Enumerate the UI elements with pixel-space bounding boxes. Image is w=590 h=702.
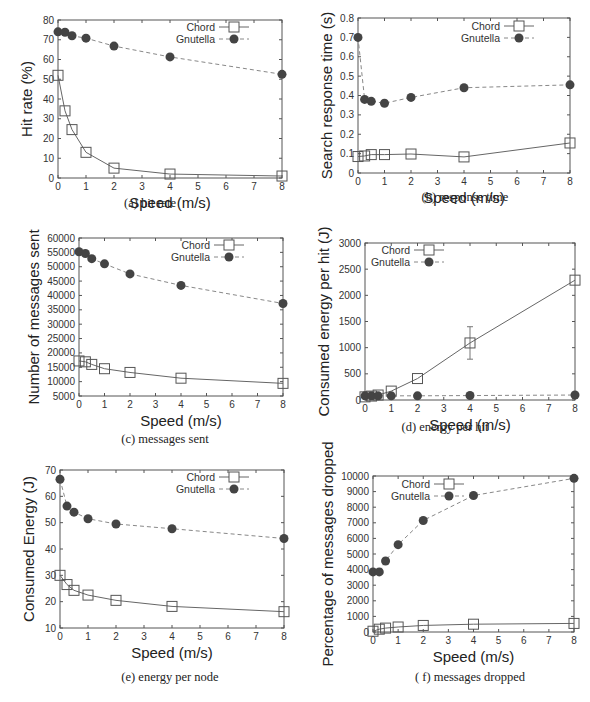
y-tick-label: 35000 [47,304,75,315]
legend-circle-icon [230,35,239,44]
x-tick-label: 0 [76,399,82,410]
y-tick-label: 40 [43,94,55,105]
y-tick-label: 50000 [47,261,75,272]
legend-circle-icon [515,34,524,43]
y-tick-label: 25000 [47,333,75,344]
x-tick-label: 3 [141,631,147,642]
legend-label-chord: Chord [471,20,500,32]
data-point-gnutella [374,391,383,400]
x-tick-label: 6 [223,181,229,192]
y-tick-label: 20000 [47,347,75,358]
y-tick-label: 5000 [53,391,76,402]
x-tick-label: 7 [541,176,547,187]
y-axis-title: Search response time (s) [318,12,335,180]
data-point-gnutella [63,502,72,511]
legend-label-gnutella: Gnutella [176,33,215,45]
x-tick-label: 0 [355,176,361,187]
caption-d: (d) energy per hit [402,420,489,435]
x-tick-label: 4 [169,631,175,642]
chart-a: 01234567801020304050607080Speed (m/s)Hit… [18,15,287,212]
x-tick-label: 3 [139,181,145,192]
y-tick-label: 0.1 [340,148,354,159]
y-axis-title: Number of messages sent [25,229,42,405]
x-tick-label: 8 [567,176,573,187]
data-point-gnutella [68,31,77,40]
series-line-chord [58,75,282,176]
x-axis-title: Speed (m/s) [433,648,515,665]
series-line-gnutella [358,37,570,103]
y-tick-label: 10 [43,153,55,164]
y-tick-label: 10000 [47,376,75,387]
x-tick-label: 1 [83,181,89,192]
legend: ChordGnutella [176,21,249,45]
legend-circle-icon [425,258,434,267]
chart-c: 0123456785000100001500020000250003000035… [25,229,288,429]
y-tick-label: 500 [344,368,361,379]
y-tick-label: 60000 [47,233,75,244]
x-tick-label: 0 [362,403,368,414]
x-tick-label: 2 [415,403,421,414]
x-tick-label: 4 [467,403,473,414]
y-tick-label: 4000 [347,564,370,575]
x-tick-label: 7 [253,631,259,642]
figure-svg: 01234567801020304050607080Speed (m/s)Hit… [0,0,590,702]
x-tick-label: 1 [85,631,91,642]
legend-label-chord: Chord [401,478,430,490]
legend-square-icon [514,21,524,31]
x-tick-label: 5 [493,403,499,414]
x-tick-label: 2 [111,181,117,192]
data-point-gnutella [280,534,289,543]
x-tick-label: 7 [255,399,261,410]
data-point-gnutella [407,93,416,102]
legend-square-icon [444,479,454,489]
y-tick-label: 30000 [47,319,75,330]
y-tick-label: 0.7 [340,32,354,43]
y-tick-label: 10000 [341,471,369,482]
x-tick-label: 8 [279,181,285,192]
y-axis-title: Percentage of messages dropped [319,441,336,666]
x-tick-label: 2 [420,635,426,646]
x-tick-label: 3 [435,176,441,187]
x-tick-label: 4 [167,181,173,192]
y-tick-label: 50 [45,517,57,528]
y-tick-label: 30 [43,113,55,124]
legend-label-gnutella: Gnutella [176,483,215,495]
x-tick-label: 7 [546,403,552,414]
legend: ChordGnutella [371,244,444,268]
x-tick-label: 5 [197,631,203,642]
y-tick-label: 0 [48,173,54,184]
legend-square-icon [229,472,239,482]
x-tick-label: 3 [153,399,159,410]
caption-f: ( f) messages dropped [415,670,525,685]
data-point-gnutella [278,70,287,79]
legend: ChordGnutella [391,478,464,502]
data-point-gnutella [466,391,475,400]
y-tick-label: 0.8 [340,13,354,24]
y-tick-label: 60 [43,54,55,65]
caption-c: (c) messages sent [121,432,208,447]
y-tick-label: 1500 [339,316,362,327]
y-tick-label: 70 [43,34,55,45]
data-point-gnutella [571,391,580,400]
legend: ChordGnutella [461,20,534,44]
legend-square-icon [224,240,234,250]
data-point-gnutella [82,34,91,43]
x-tick-label: 3 [446,635,452,646]
y-tick-label: 7000 [347,517,370,528]
x-tick-label: 7 [251,181,257,192]
y-tick-label: 9000 [347,486,370,497]
y-tick-label: 1000 [347,611,370,622]
data-point-gnutella [84,514,93,523]
plot-frame [60,470,284,628]
x-tick-label: 2 [408,176,414,187]
caption-b: (b) response time [422,190,509,205]
series-line-chord [60,575,284,611]
caption-a: (a) hit rate [124,196,176,211]
data-point-gnutella [460,83,469,92]
data-point-gnutella [279,299,288,308]
y-tick-label: 70 [45,465,57,476]
y-tick-label: 6000 [347,533,370,544]
x-tick-label: 8 [280,399,286,410]
data-point-gnutella [110,42,119,51]
legend-label-gnutella: Gnutella [461,32,500,44]
